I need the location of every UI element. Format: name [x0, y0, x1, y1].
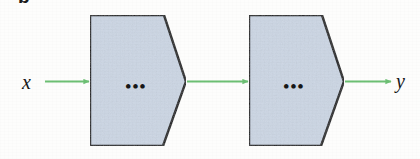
first-processing-block: •••: [90, 15, 186, 146]
first-block-ellipsis: •••: [125, 77, 146, 96]
second-processing-block: •••: [249, 15, 344, 146]
output-variable-label: y: [396, 71, 405, 91]
pipeline-diagram: ••• •••: [0, 0, 420, 159]
figure-container: b ••• •: [0, 0, 420, 159]
second-block-ellipsis: •••: [283, 77, 304, 96]
input-variable-label: x: [22, 72, 31, 92]
